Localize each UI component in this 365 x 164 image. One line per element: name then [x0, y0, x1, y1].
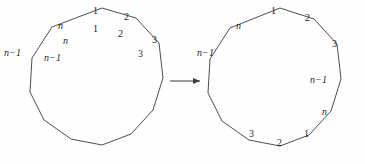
transformation-arrow-head [193, 78, 200, 84]
left-label-2-outside: 2 [124, 12, 129, 22]
right-label-n-top: n [236, 21, 241, 31]
left-label-n-outside: n [58, 21, 63, 31]
right-label-1-top: 1 [271, 6, 276, 16]
left-label-1-inside: 1 [93, 24, 98, 34]
left-label-n-minus-1-inside: n−1 [44, 53, 61, 63]
right-label-n-right: n [322, 107, 327, 117]
right-label-3-bottom: 3 [249, 129, 254, 139]
right-label-1-bottom: 1 [304, 129, 309, 139]
left-label-n-minus-1-outside: n−1 [4, 48, 21, 58]
right-label-2-top: 2 [305, 13, 310, 23]
right-label-n-minus-1-left: n−1 [197, 48, 214, 58]
right-label-2-bottom: 2 [277, 138, 282, 148]
left-label-n-inside: n [63, 36, 68, 46]
right-label-3-top: 3 [332, 39, 337, 49]
left-label-3-inside: 3 [138, 49, 143, 59]
left-label-3-outside: 3 [152, 35, 157, 45]
figure-canvas: n−1 n−1 n n 1 1 2 2 3 3 n−1 n 1 2 3 n−1 [0, 0, 365, 164]
right-label-n-minus-1-right: n−1 [310, 75, 327, 85]
left-label-2-inside: 2 [118, 29, 123, 39]
left-label-1-outside: 1 [93, 6, 98, 16]
